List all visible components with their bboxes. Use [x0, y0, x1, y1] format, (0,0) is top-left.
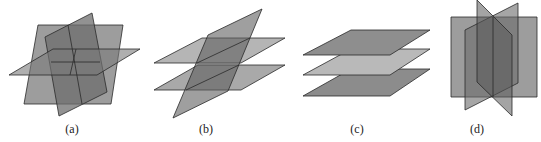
panel-a: [9, 13, 140, 116]
panel-label-b: (b): [199, 122, 213, 137]
panel-label-c: (c): [350, 122, 363, 137]
panel-d: [451, 0, 537, 116]
panel-label-a: (a): [65, 122, 78, 137]
panel-b: [154, 9, 285, 118]
panel-c: [303, 30, 430, 96]
tilted-plane: [173, 9, 262, 118]
planes-figure: [0, 0, 541, 142]
panel-label-d: (d): [470, 122, 484, 137]
